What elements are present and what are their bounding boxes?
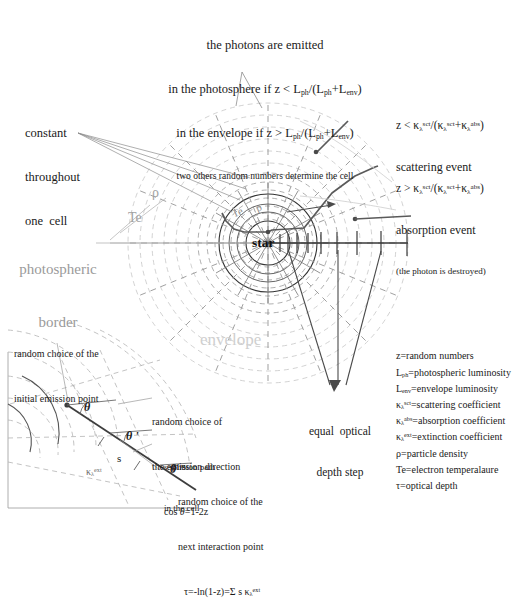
top-caption-line3: in the envelope if z > Lph/(Lph+Lenv) bbox=[145, 126, 385, 141]
legend-item: ρ=particle density bbox=[396, 446, 511, 462]
inset-next-point-caption: random choice of the next interaction po… bbox=[178, 464, 264, 602]
legend-item-definition: =optical depth bbox=[400, 480, 458, 491]
te-label-outer: Te bbox=[128, 210, 142, 227]
legend-item: z=random numbers bbox=[396, 348, 511, 364]
legend-item-definition: =scattering coefficient bbox=[411, 399, 501, 410]
inset-s-label: s bbox=[117, 452, 121, 465]
equal-optical-depth-label: equal optical depth step bbox=[288, 398, 392, 507]
absorption-event-annotation: z > κλsct/(κλsct+κλabs) absorption event… bbox=[396, 155, 486, 303]
equal-depth-line2: depth step bbox=[288, 466, 392, 480]
legend-item-superscript: ext bbox=[404, 431, 412, 438]
envelope-label: envelope bbox=[200, 330, 261, 350]
legend-item-definition: =particle density bbox=[401, 448, 468, 459]
absorption-label: absorption event bbox=[396, 223, 486, 237]
legend-item: τ=optical depth bbox=[396, 478, 511, 494]
legend-glossary: z=random numbersLph=photospheric luminos… bbox=[396, 316, 511, 526]
legend-item-superscript: sct bbox=[404, 399, 411, 406]
legend-item: Lenv=envelope luminosity bbox=[396, 381, 511, 397]
constant-cell-line1: constant bbox=[25, 126, 80, 141]
inset-kappa-label: κλext bbox=[86, 466, 102, 478]
absorption-note: (the photon is destroyed) bbox=[396, 266, 486, 277]
inset-next-line1: random choice of the bbox=[178, 494, 264, 509]
legend-list: z=random numbersLph=photospheric luminos… bbox=[396, 348, 511, 494]
inset-initial-line1: random choice of the bbox=[14, 346, 99, 361]
photospheric-border-line1: photospheric bbox=[2, 261, 114, 279]
top-caption: the photons are emitted in the photosphe… bbox=[145, 8, 385, 212]
inset-next-formula: τ=-ln(1-z)=Σ s κλext bbox=[178, 584, 264, 599]
legend-item-definition: =random numbers bbox=[400, 350, 473, 361]
inset-initial-point-caption: random choice of the initial emission po… bbox=[14, 316, 99, 436]
legend-item-definition: =extinction coefficient bbox=[412, 431, 503, 442]
legend-item: Te=electron temperalaure bbox=[396, 462, 511, 478]
star-label: star bbox=[252, 235, 275, 251]
inset-emission-line1: random choice of bbox=[152, 414, 240, 429]
legend-item-definition: =photospheric luminosity bbox=[408, 367, 511, 378]
inset-theta-double-prime-label: θ " bbox=[170, 462, 186, 476]
legend-item: κλabs=absorption coefficient bbox=[396, 413, 511, 429]
legend-item: κλsct=scattering coefficient bbox=[396, 397, 511, 413]
top-caption-line4: two others random numbers determine the … bbox=[145, 171, 385, 182]
inset-next-line2: next interaction point bbox=[178, 539, 264, 554]
constant-cell-line2: throughout bbox=[25, 170, 80, 185]
legend-item: κλext=extinction coefficient bbox=[396, 429, 511, 445]
legend-item-subscript: env bbox=[402, 387, 411, 394]
absorption-formula: z > κλsct/(κλsct+κλabs) bbox=[396, 182, 486, 196]
rho-label-outer: ρ bbox=[152, 185, 159, 202]
inset-theta-prime-label: θ ' bbox=[126, 429, 139, 443]
legend-item-definition: =absorption coefficient bbox=[412, 415, 505, 426]
top-caption-line1: the photons are emitted bbox=[145, 38, 385, 53]
top-caption-line2: in the photosphere if z < Lph/(Lph+Lenv) bbox=[145, 82, 385, 97]
equal-depth-line1: equal optical bbox=[288, 425, 392, 439]
legend-item-definition: =electron temperalaure bbox=[406, 464, 499, 475]
legend-item-symbol: Te bbox=[396, 464, 406, 475]
inset-theta-label: θ bbox=[84, 400, 90, 414]
legend-item: Lph=photospheric luminosity bbox=[396, 365, 511, 381]
scattering-formula: z < κλsct/(κλsct+κλabs) bbox=[396, 119, 484, 133]
legend-item-definition: =envelope luminosity bbox=[411, 383, 498, 394]
